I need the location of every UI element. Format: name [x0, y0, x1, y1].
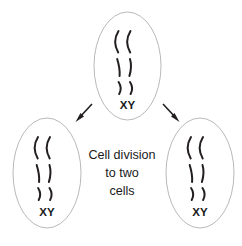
- diagram-canvas: XY XY: [0, 0, 242, 246]
- daughter-cell-left: XY: [13, 118, 81, 228]
- chromosome: [38, 188, 40, 200]
- daughter-cell-left-chromosome-pair-1: [35, 137, 50, 159]
- chromosome: [130, 82, 132, 94]
- chromosome: [200, 137, 203, 159]
- chromosome: [188, 137, 191, 159]
- caption-line-1: Cell division: [88, 148, 155, 162]
- chromosome: [47, 137, 50, 159]
- daughter-cell-right-chromosome-pair-1: [188, 137, 203, 159]
- daughter-cell-left-chromosome-pair-2: [37, 165, 51, 182]
- arrow-left: [76, 104, 93, 122]
- daughter-cell-right: XY: [166, 118, 234, 228]
- parent-cell-chromosome-pair-3: [119, 82, 133, 94]
- chromosome: [49, 165, 51, 182]
- chromosome: [37, 165, 40, 182]
- parent-cell-chromosome-pair-2: [117, 59, 131, 76]
- daughter-cell-left-chromosome-pair-3: [38, 188, 52, 200]
- cell-division-diagram: XY XY: [0, 0, 242, 246]
- parent-cell: XY: [94, 12, 161, 120]
- chromosome: [203, 188, 205, 200]
- chromosome: [127, 31, 130, 53]
- daughter-cell-right-chromosome-pair-2: [190, 165, 204, 182]
- arrow-right: [163, 104, 180, 122]
- daughter-cell-right-chromosome-pair-3: [191, 188, 205, 200]
- chromosome: [191, 188, 193, 200]
- chromosome: [117, 59, 120, 76]
- chromosome: [115, 31, 118, 53]
- parent-cell-chromosome-pair-1: [115, 31, 130, 53]
- chromosome: [35, 137, 38, 159]
- daughter-cell-left-label: XY: [39, 206, 55, 218]
- caption-line-2: to two: [105, 166, 139, 180]
- chromosome: [119, 82, 121, 94]
- chromosome: [190, 165, 193, 182]
- daughter-cell-right-label: XY: [192, 206, 208, 218]
- chromosome: [50, 188, 52, 200]
- parent-cell-label: XY: [120, 99, 136, 111]
- caption-line-3: cells: [109, 184, 134, 198]
- caption-text: Cell division to two cells: [88, 148, 155, 198]
- chromosome: [129, 59, 131, 76]
- chromosome: [202, 165, 204, 182]
